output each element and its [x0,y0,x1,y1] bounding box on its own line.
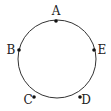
point-label: C [23,93,32,107]
circle [18,20,96,98]
point-label: E [98,43,107,57]
point-e: E [92,43,106,57]
point-d: D [78,93,91,107]
point-label: D [81,93,91,107]
point-c: C [23,93,35,107]
point-label: A [51,4,61,18]
point-label: B [7,43,16,57]
circle-diagram: A B C D E [0,0,111,111]
